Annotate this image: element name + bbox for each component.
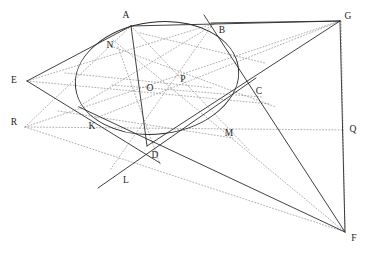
dotted-segment-N-D <box>118 47 160 164</box>
point-label-P: P <box>180 74 185 84</box>
dotted-segment-R-A <box>25 26 131 127</box>
solid-line-network <box>27 15 345 232</box>
point-labels: A B C D E F G K L M N O P Q R <box>11 10 357 243</box>
point-label-N: N <box>107 40 114 50</box>
point-label-C: C <box>256 86 262 96</box>
point-label-M: M <box>225 128 234 138</box>
dotted-segment-upper-chord <box>140 33 265 63</box>
solid-segment-G-F <box>340 21 345 232</box>
solid-segment-E-A <box>27 26 131 81</box>
dotted-segment-O-P-C <box>112 85 262 97</box>
point-label-F: F <box>351 233 356 243</box>
point-label-B: B <box>219 25 225 35</box>
point-label-Q: Q <box>350 124 357 134</box>
solid-segment-D-C-G <box>147 21 340 146</box>
point-label-G: G <box>345 11 352 21</box>
point-label-O: O <box>147 83 154 93</box>
point-label-K: K <box>89 121 96 131</box>
point-label-D: D <box>152 150 159 160</box>
geometry-figure: A B C D E F G K L M N O P Q R <box>0 0 368 253</box>
geometry-canvas: A B C D E F G K L M N O P Q R <box>0 0 368 253</box>
dotted-line-network <box>25 21 345 232</box>
dotted-segment-K-B <box>78 23 216 107</box>
solid-segment-B-F <box>204 15 345 232</box>
dotted-segment-R-F <box>25 127 345 232</box>
point-label-A: A <box>123 10 130 20</box>
solid-segment-K-F <box>79 107 345 232</box>
point-label-E: E <box>11 75 17 85</box>
dotted-segment-N-C <box>108 45 276 107</box>
point-label-L: L <box>123 175 129 185</box>
point-label-R: R <box>11 117 18 127</box>
